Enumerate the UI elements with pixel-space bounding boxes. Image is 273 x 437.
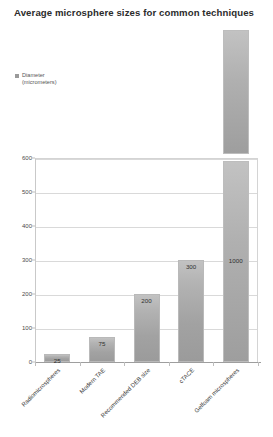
bar[interactable]: [134, 294, 160, 362]
y-axis-tick-label: 200: [2, 291, 32, 297]
x-axis-tick-mark: [169, 362, 170, 366]
chart-title: Average microsphere sizes for common tec…: [14, 7, 254, 18]
y-axis-tick-label: 500: [2, 189, 32, 195]
x-axis-category-label: Modern TAE: [78, 367, 106, 395]
y-axis-tick-label: 600: [2, 155, 32, 161]
x-axis-tick-mark: [80, 362, 81, 366]
bar-value-label: 1000: [229, 257, 243, 264]
bar-value-label: 25: [54, 357, 61, 364]
chart-container: Average microsphere sizes for common tec…: [0, 0, 273, 437]
x-axis-tick-mark: [258, 362, 259, 366]
bar-value-label: 300: [186, 263, 196, 270]
y-axis-tick-label: 300: [2, 257, 32, 263]
x-axis-tick-mark: [124, 362, 125, 366]
x-axis-tick-mark: [35, 362, 36, 366]
bar-value-label: 200: [141, 297, 151, 304]
bar[interactable]: [223, 30, 249, 362]
page-caption: [0, 425, 273, 437]
y-axis: 0100200300400500600: [0, 0, 32, 437]
x-axis-line: [35, 362, 261, 363]
bar[interactable]: [178, 260, 204, 362]
y-axis-tick-label: 400: [2, 223, 32, 229]
x-axis-category-label: Recommended DEB size: [99, 367, 151, 419]
bar-segment-upper: [223, 30, 249, 154]
bar-value-label: 75: [98, 340, 105, 347]
x-axis-category-label: cTACE: [178, 367, 195, 384]
x-axis-tick-mark: [213, 362, 214, 366]
x-axis-category-label: Gelfoam microspheres: [193, 367, 240, 414]
y-axis-tick-label: 0: [2, 359, 32, 365]
y-axis-tick-label: 100: [2, 325, 32, 331]
